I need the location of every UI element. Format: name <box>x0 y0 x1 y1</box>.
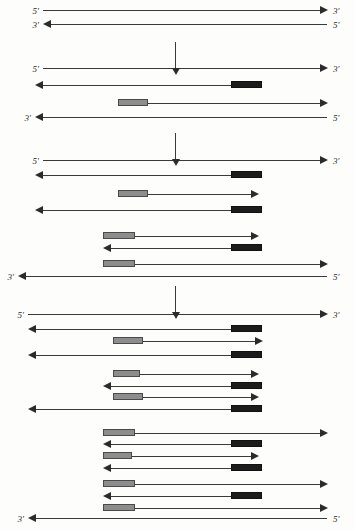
step-arrow-3-head-icon <box>172 312 180 319</box>
strand-line <box>35 355 262 356</box>
arrowhead-right-icon <box>320 310 328 318</box>
reverse-primer-block <box>231 325 262 332</box>
forward-primer-block <box>113 370 140 377</box>
reverse-primer-block <box>231 405 262 412</box>
cycle-3-products: 5'3'3'5' <box>0 0 355 530</box>
strand-3-reverse-d <box>0 403 355 417</box>
strand-label-left: 3' <box>10 512 24 526</box>
step-arrow-2-head-icon <box>172 159 180 166</box>
strand-line <box>103 508 320 509</box>
arrowhead-right-icon <box>320 504 328 512</box>
strand-label-right: 3' <box>333 308 339 322</box>
forward-primer-block <box>103 504 135 511</box>
step-arrow-3-stem <box>175 286 176 312</box>
arrowhead-right-icon <box>251 452 259 460</box>
forward-primer-block <box>113 393 143 400</box>
forward-primer-block <box>103 480 135 487</box>
arrowhead-right-icon <box>251 393 259 401</box>
arrowhead-left-icon <box>28 351 36 359</box>
reverse-primer-block <box>231 382 262 389</box>
strand-label-right: 5' <box>333 512 339 526</box>
arrowhead-right-icon <box>320 429 328 437</box>
strand-label-left: 5' <box>10 308 24 322</box>
strand-3-reverse-b <box>0 349 355 363</box>
step-arrow-1-stem <box>175 42 176 68</box>
strand-3-forward-a <box>0 335 355 349</box>
strand-3-bottom: 3'5' <box>0 512 355 526</box>
reverse-primer-block <box>231 464 262 471</box>
strand-line <box>35 409 262 410</box>
forward-primer-block <box>103 452 132 459</box>
arrowhead-left-icon <box>28 405 36 413</box>
step-arrow-2-stem <box>175 133 176 159</box>
strand-line <box>35 518 327 519</box>
reverse-primer-block <box>231 492 262 499</box>
arrowhead-left-icon <box>103 492 111 500</box>
arrowhead-right-icon <box>251 370 259 378</box>
strand-line <box>103 484 320 485</box>
arrowhead-right-icon <box>255 337 263 345</box>
arrowhead-right-icon <box>320 480 328 488</box>
pcr-diagram: 5'3'3'5'5'3'3'5'5'3'3'5'5'3'3'5' <box>0 0 355 530</box>
step-arrow-1-head-icon <box>172 68 180 75</box>
arrowhead-left-icon <box>103 464 111 472</box>
arrowhead-left-icon <box>103 440 111 448</box>
reverse-primer-block <box>231 351 262 358</box>
arrowhead-left-icon <box>28 514 36 522</box>
arrowhead-left-icon <box>103 382 111 390</box>
strand-3-reverse-f <box>0 462 355 476</box>
arrowhead-left-icon <box>28 325 36 333</box>
forward-primer-block <box>103 429 135 436</box>
reverse-primer-block <box>231 440 262 447</box>
forward-primer-block <box>113 337 143 344</box>
strand-line <box>103 433 320 434</box>
strand-line <box>35 329 262 330</box>
